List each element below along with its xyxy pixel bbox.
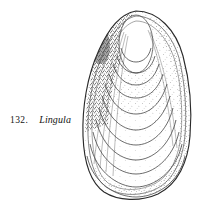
figure-plate: 132. Lingula [0, 0, 204, 211]
figure-caption: 132. Lingula [10, 114, 82, 130]
figure-number: 132. [10, 115, 28, 125]
specimen-illustration [78, 4, 200, 206]
specimen-name: Lingula [39, 114, 71, 125]
lingula-shell-drawing [78, 4, 200, 206]
